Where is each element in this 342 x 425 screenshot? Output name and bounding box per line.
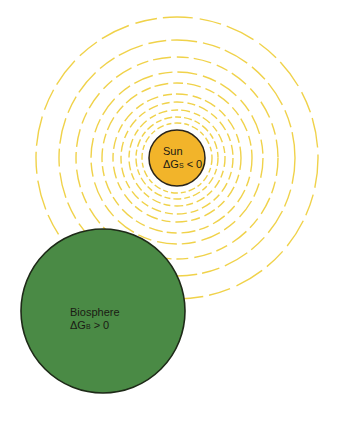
sun-equation: ΔGS < 0 [163,158,202,172]
diagram-canvas [0,0,342,425]
biosphere-equation: ΔGB > 0 [70,319,120,333]
biosphere-label: Biosphere ΔGB > 0 [70,306,120,333]
sun-label: Sun ΔGS < 0 [163,145,202,172]
biosphere-name: Biosphere [70,306,120,319]
sun-name: Sun [163,145,202,158]
